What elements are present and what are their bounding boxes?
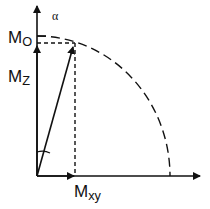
mxy-label: Mxy (74, 183, 101, 203)
alpha-text: α (52, 9, 58, 23)
alpha-label: α (52, 10, 58, 22)
mo-sub: O (22, 34, 32, 49)
mxy-main: M (74, 182, 88, 201)
mo-label: MO (8, 29, 32, 49)
mxy-sub: xy (88, 188, 101, 203)
mz-main: M (8, 67, 22, 86)
vector-diagram: α MO MZ Mxy (0, 0, 210, 209)
resultant-vector (37, 47, 73, 176)
mz-sub: Z (22, 73, 30, 88)
mo-main: M (8, 28, 22, 47)
mz-label: MZ (8, 68, 30, 88)
